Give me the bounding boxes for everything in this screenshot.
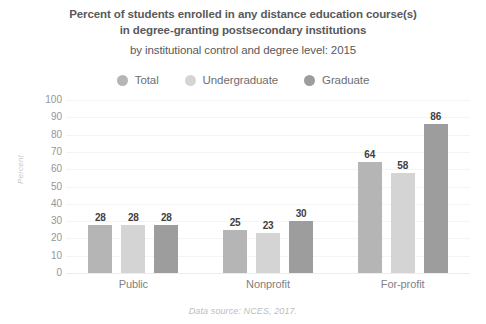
- bar-rect[interactable]: [223, 230, 247, 273]
- legend-item-graduate[interactable]: Graduate: [304, 74, 369, 86]
- y-axis-tick-10: 10: [28, 251, 62, 261]
- bar-rect[interactable]: [256, 233, 280, 273]
- bar-nonprofit-total[interactable]: 25: [223, 100, 247, 273]
- bar-rect[interactable]: [358, 162, 382, 273]
- y-axis-tick-100: 100: [28, 95, 62, 105]
- chart-legend: Total Undergraduate Graduate: [0, 74, 486, 86]
- legend-label-total: Total: [135, 74, 159, 86]
- bar-value-label: 30: [296, 208, 307, 219]
- bar-rect[interactable]: [88, 225, 112, 273]
- page-title-line-2: in degree-granting postsecondary institu…: [0, 22, 486, 38]
- bar-for-profit-graduate[interactable]: 86: [424, 100, 448, 273]
- data-source-note: Data source: NCES, 2017.: [0, 306, 486, 316]
- bar-group-for-profit: 645886: [355, 100, 451, 273]
- bar-for-profit-total[interactable]: 64: [358, 100, 382, 273]
- bar-value-label: 58: [397, 160, 408, 171]
- bar-value-label: 28: [161, 212, 172, 223]
- bar-group-nonprofit: 252330: [220, 100, 316, 273]
- bar-rect[interactable]: [121, 225, 145, 273]
- bar-nonprofit-graduate[interactable]: 30: [289, 100, 313, 273]
- bar-group-public: 282828: [85, 100, 181, 273]
- bar-public-undergraduate[interactable]: 28: [121, 100, 145, 273]
- bar-rect[interactable]: [154, 225, 178, 273]
- legend-label-undergraduate: Undergraduate: [203, 74, 278, 86]
- y-axis-tick-labels: 1009080706050403020100: [28, 100, 62, 273]
- y-axis-title: Percent: [16, 155, 25, 184]
- y-axis-tick-80: 80: [28, 130, 62, 140]
- legend-swatch-icon-undergraduate: [185, 75, 196, 86]
- bar-value-label: 64: [364, 149, 375, 160]
- page-title-line-1: Percent of students enrolled in any dist…: [0, 6, 486, 22]
- bar-value-label: 28: [95, 212, 106, 223]
- chart-title-block: Percent of students enrolled in any dist…: [0, 6, 486, 58]
- bar-public-total[interactable]: 28: [88, 100, 112, 273]
- bar-rect[interactable]: [391, 173, 415, 273]
- y-axis-tick-90: 90: [28, 112, 62, 122]
- x-axis-label-for-profit: For-profit: [335, 278, 470, 290]
- bar-for-profit-undergraduate[interactable]: 58: [391, 100, 415, 273]
- gridline-0: [66, 273, 470, 274]
- chart-plot-area: Percent 1009080706050403020100 282828252…: [0, 100, 486, 300]
- y-axis-tick-70: 70: [28, 147, 62, 157]
- y-axis-tick-60: 60: [28, 164, 62, 174]
- y-axis-tick-20: 20: [28, 233, 62, 243]
- legend-label-graduate: Graduate: [322, 74, 369, 86]
- y-axis-tick-30: 30: [28, 216, 62, 226]
- bar-rect[interactable]: [289, 221, 313, 273]
- chart-bars-area: 282828252330645886: [66, 100, 470, 273]
- bar-value-label: 28: [128, 212, 139, 223]
- page-subtitle: by institutional control and degree leve…: [0, 42, 486, 58]
- y-axis-tick-0: 0: [28, 268, 62, 278]
- bar-nonprofit-undergraduate[interactable]: 23: [256, 100, 280, 273]
- bar-rect[interactable]: [424, 124, 448, 273]
- legend-item-undergraduate[interactable]: Undergraduate: [185, 74, 278, 86]
- legend-swatch-icon-graduate: [304, 75, 315, 86]
- legend-item-total[interactable]: Total: [117, 74, 159, 86]
- legend-swatch-icon-total: [117, 75, 128, 86]
- x-axis-label-public: Public: [66, 278, 201, 290]
- y-axis-tick-50: 50: [28, 182, 62, 192]
- bar-public-graduate[interactable]: 28: [154, 100, 178, 273]
- bar-value-label: 86: [430, 111, 441, 122]
- x-axis-label-nonprofit: Nonprofit: [201, 278, 336, 290]
- x-axis-tick-labels: PublicNonprofitFor-profit: [66, 278, 470, 296]
- bar-value-label: 23: [263, 220, 274, 231]
- y-axis-tick-40: 40: [28, 199, 62, 209]
- bar-value-label: 25: [230, 217, 241, 228]
